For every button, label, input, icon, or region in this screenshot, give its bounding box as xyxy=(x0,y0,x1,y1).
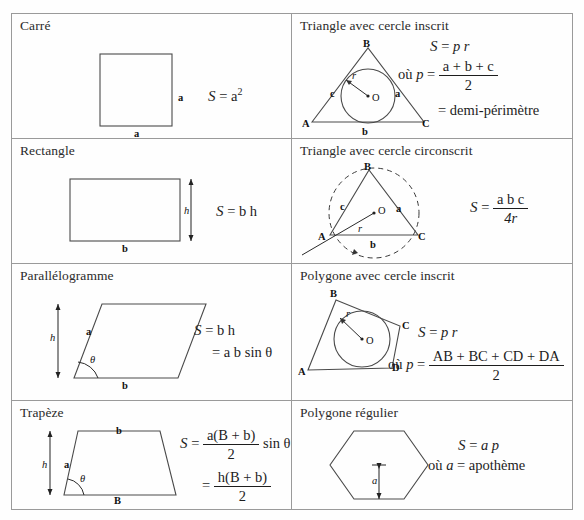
figure-trapezoid: b B h a θ xyxy=(36,425,196,505)
formula-trap2-eq: = xyxy=(202,477,210,493)
formula-hexagon-line1: S = a p xyxy=(458,437,499,454)
trapezoid-label-side: a xyxy=(64,459,69,470)
formula-quad-line1: S = p r xyxy=(418,324,457,341)
quad-label-A: A xyxy=(298,366,306,377)
area-formula-table: Carré a a S = a2 Triangle avec cercle in… xyxy=(11,13,573,510)
formula-hex-lhs: S xyxy=(458,437,466,453)
formula-trap-num: a(B + b) xyxy=(203,427,259,445)
formula-trap2-fraction: h(B + b) 2 xyxy=(214,469,271,504)
square-label-side-right: a xyxy=(178,92,183,103)
formula-trap-eq: = xyxy=(191,435,199,451)
parallelogram-label-height: h xyxy=(50,332,55,343)
formula-hex-rhs: a p xyxy=(481,437,499,453)
formula-hex2-where: où xyxy=(428,457,443,473)
worksheet-page: Carré a a S = a2 Triangle avec cercle in… xyxy=(0,0,584,520)
formula-carre: S = a2 xyxy=(208,86,242,105)
formula-quad-rhs: p r xyxy=(441,324,458,340)
formula-parallelogram-line2: = a b sin θ xyxy=(212,344,272,361)
formula-quad-line2: où p = AB + BC + CD + DA 2 xyxy=(388,348,564,383)
f1-lhs: S xyxy=(430,38,438,54)
rectangle-label-base: b xyxy=(122,243,128,254)
triangle-circumcircle-label-b: b xyxy=(370,239,376,250)
cell-parallelogramme: Parallélogramme h a b θ S = b h xyxy=(12,264,292,401)
cell-polygone-cercle-inscrit: Polygone avec cercle inscrit B C D A O r… xyxy=(292,264,572,401)
formula-rectangle-lhs: S xyxy=(216,203,224,219)
formula-par2-rhs: a b sin θ xyxy=(224,344,272,360)
cell-title-triangle-inscrit: Triangle avec cercle inscrit xyxy=(300,18,449,34)
formula-par2-eq: = xyxy=(212,344,220,360)
cell-title-rectangle: Rectangle xyxy=(20,143,75,159)
formula-quad2-fraction: AB + BC + CD + DA 2 xyxy=(429,348,564,383)
formula-trap-den: 2 xyxy=(203,445,259,463)
formula-quad-eq: = xyxy=(429,324,437,340)
formula-hex-eq: = xyxy=(469,437,477,453)
cell-title-carre: Carré xyxy=(20,18,50,34)
triangle-circumcircle-label-C: C xyxy=(418,231,426,242)
trapezoid-label-angle: θ xyxy=(80,473,85,484)
f3-rhs: demi-périmètre xyxy=(450,102,539,118)
triangle-incircle-label-c: c xyxy=(330,88,335,99)
triangle-incircle-label-B: B xyxy=(363,38,370,49)
formula-par-rhs: b h xyxy=(217,322,235,338)
parallelogram-label-base: b xyxy=(122,380,128,391)
cell-polygone-regulier: Polygone régulier a S = a p où a = xyxy=(292,401,572,509)
formula-hex2-rhs: apothème xyxy=(469,457,525,473)
f2-lhs: p xyxy=(416,66,423,82)
cell-carre: Carré a a S = a2 xyxy=(12,14,292,139)
trapezoid-label-top: b xyxy=(116,425,122,436)
hexagon-label-apothem: a xyxy=(372,475,377,486)
trapezoid-label-bottom: B xyxy=(114,495,121,506)
formula-quad2-num: AB + BC + CD + DA xyxy=(429,348,564,366)
formula-rectangle-eq: = xyxy=(227,203,235,219)
triangle-circumcircle-label-B: B xyxy=(364,161,371,172)
formula-trapezoid-line2: = h(B + b) 2 xyxy=(202,469,271,504)
triangle-incircle-label-O: O xyxy=(372,92,380,103)
formula-quad-lhs: S xyxy=(418,324,426,340)
cell-triangle-cercle-circonscrit: Triangle avec cercle circonscrit B A C O… xyxy=(292,139,572,264)
formula-rectangle: S = b h xyxy=(216,203,257,220)
formula-circum-lhs: S xyxy=(470,199,478,215)
formula-circum-fraction: a b c 4r xyxy=(493,191,528,226)
formula-quad2-den: 2 xyxy=(429,366,564,384)
f3-eq: = xyxy=(438,102,446,118)
triangle-circumcircle-label-a: a xyxy=(396,203,401,214)
formula-triangle-incircle-line3: = demi-périmètre xyxy=(438,102,539,119)
f1-rhs: p r xyxy=(453,38,470,54)
triangle-circumcircle-label-c: c xyxy=(340,201,345,212)
quad-label-C: C xyxy=(402,320,410,331)
figure-triangle-circumcircle: B A C O r a b c xyxy=(302,161,452,261)
quad-label-B: B xyxy=(330,288,337,299)
formula-par-eq: = xyxy=(205,322,213,338)
cell-title-trapeze: Trapèze xyxy=(20,405,64,421)
formula-quad2-where: où xyxy=(388,356,403,372)
cell-rectangle: Rectangle h b S = b h xyxy=(12,139,292,264)
triangle-circumcircle-label-O: O xyxy=(378,205,386,216)
formula-triangle-incircle-line2: où p = a + b + c 2 xyxy=(398,58,498,93)
formula-parallelogram-line1: S = b h xyxy=(194,322,235,339)
formula-trap2-num: h(B + b) xyxy=(214,469,271,487)
formula-triangle-circumcircle: S = a b c 4r xyxy=(470,191,528,226)
parallelogram-label-side: a xyxy=(86,326,91,337)
formula-rectangle-rhs: b h xyxy=(239,203,257,219)
quad-label-O: O xyxy=(366,335,374,346)
triangle-circumcircle-label-A: A xyxy=(318,231,326,242)
formula-circum-num: a b c xyxy=(493,191,528,209)
formula-circum-eq: = xyxy=(481,199,489,215)
formula-carre-exponent: 2 xyxy=(237,86,242,97)
cell-triangle-cercle-inscrit: Triangle avec cercle inscrit B A C O r a… xyxy=(292,14,572,139)
triangle-circumcircle-label-r: r xyxy=(358,223,362,234)
formula-hex2-lhs: a xyxy=(446,457,453,473)
cell-title-triangle-circonscrit: Triangle avec cercle circonscrit xyxy=(300,143,473,159)
quad-label-r: r xyxy=(346,308,350,319)
formula-hex2-eq: = xyxy=(457,457,465,473)
formula-quad2-eq: = xyxy=(417,356,425,372)
formula-carre-lhs: S xyxy=(208,88,216,104)
cell-trapeze: Trapèze b B h a θ S = a(B + b) xyxy=(12,401,292,509)
formula-circum-den: 4r xyxy=(493,209,528,227)
formula-trap-fraction: a(B + b) 2 xyxy=(203,427,259,462)
triangle-incircle-label-A: A xyxy=(302,118,310,129)
f2-num: a + b + c xyxy=(439,58,498,76)
f2-den: 2 xyxy=(439,76,498,94)
formula-quad2-lhs: p xyxy=(406,356,413,372)
triangle-incircle-label-b: b xyxy=(362,126,368,137)
